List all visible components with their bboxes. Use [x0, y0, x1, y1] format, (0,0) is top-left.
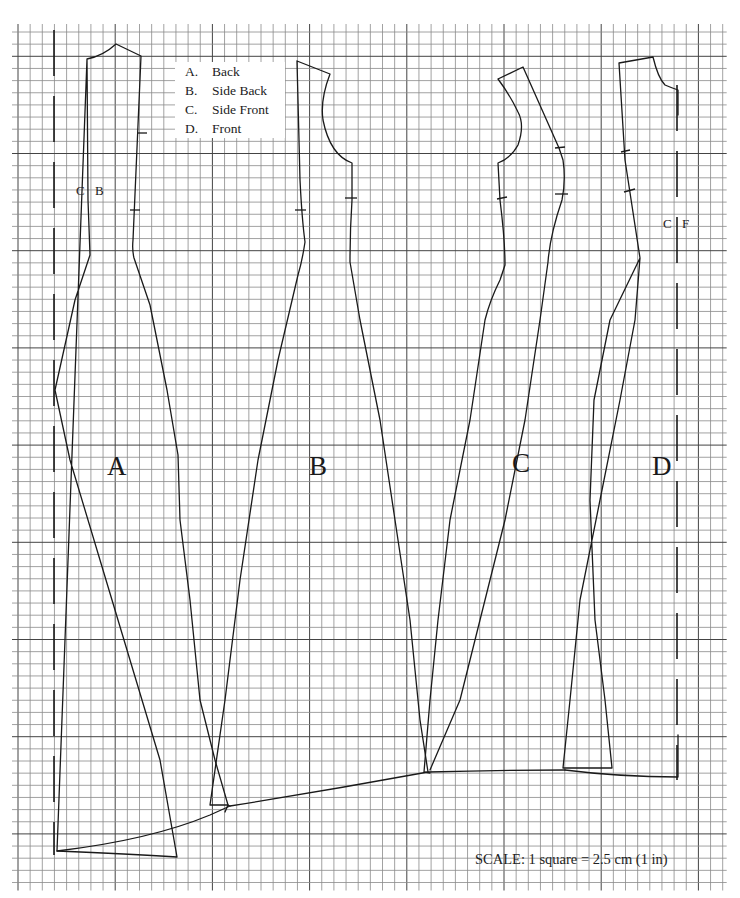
pattern-piece-side-front	[424, 67, 568, 773]
center-back-label-c: C	[76, 183, 85, 198]
legend-label-side-back: Side Back	[212, 83, 267, 98]
legend-key-a: A.	[185, 64, 198, 79]
legend-key-c: C.	[185, 102, 197, 117]
side-front-notch-2	[555, 147, 565, 148]
pattern-piece-front	[563, 57, 678, 777]
piece-letter-c: C	[512, 448, 530, 478]
center-front-label-c: C	[663, 216, 672, 231]
legend-key-d: D.	[185, 121, 198, 136]
pattern-diagram: A. Back B. Side Back C. Side Front D. Fr…	[0, 0, 740, 898]
legend-key-b: B.	[185, 83, 197, 98]
legend-label-back: Back	[212, 64, 240, 79]
side-front-notch-1	[497, 197, 507, 199]
legend-label-side-front: Side Front	[212, 102, 269, 117]
piece-letter-b: B	[309, 451, 327, 481]
piece-letter-a: A	[107, 451, 127, 481]
center-front-label-f: F	[682, 216, 689, 231]
front-outline	[563, 57, 678, 777]
side-front-outline	[424, 67, 564, 773]
center-back-label-b: B	[95, 183, 104, 198]
legend-label-front: Front	[212, 121, 242, 136]
scale-note: SCALE: 1 square = 2.5 cm (1 in)	[475, 851, 668, 868]
legend: A. Back B. Side Back C. Side Front D. Fr…	[175, 62, 285, 138]
piece-letter-d: D	[652, 451, 672, 481]
hem-connecting-curve	[57, 770, 565, 851]
